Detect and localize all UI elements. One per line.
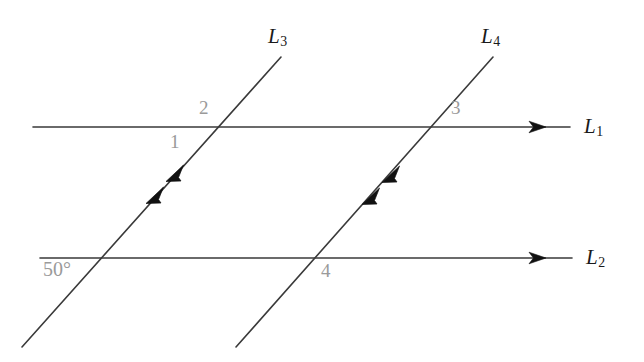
line-L2 (40, 252, 572, 264)
geometry-diagram: 1 2 3 4 50° L1 L2 L3 L4 (0, 0, 644, 362)
line-label-L4: L4 (481, 26, 500, 49)
line-label-L3: L3 (268, 26, 287, 49)
arrowhead-L4-second (382, 166, 400, 183)
line-label-L2: L2 (586, 247, 605, 270)
arrowhead-L4-first (362, 188, 380, 205)
line-label-L2-letter: L (586, 245, 598, 269)
line-label-L3-letter: L (268, 24, 280, 48)
angle-label-1: 1 (170, 132, 180, 151)
line-label-L3-subscript: 3 (280, 34, 287, 49)
line-label-L1-letter: L (584, 114, 596, 138)
line-label-L4-letter: L (481, 24, 493, 48)
line-label-L2-subscript: 2 (598, 255, 605, 270)
arrowhead-L3-first (146, 187, 164, 204)
line-L1 (33, 121, 570, 133)
line-label-L1: L1 (584, 116, 603, 139)
angle-label-4: 4 (321, 261, 331, 280)
line-label-L1-subscript: 1 (596, 124, 603, 139)
angle-label-50-degrees: 50° (43, 259, 71, 279)
line-L3 (22, 57, 281, 347)
arrowhead-L3-second (166, 165, 184, 182)
angle-label-2: 2 (199, 98, 209, 117)
line-label-L4-subscript: 4 (493, 34, 500, 49)
geometry-canvas (0, 0, 644, 362)
angle-label-3: 3 (451, 98, 461, 117)
